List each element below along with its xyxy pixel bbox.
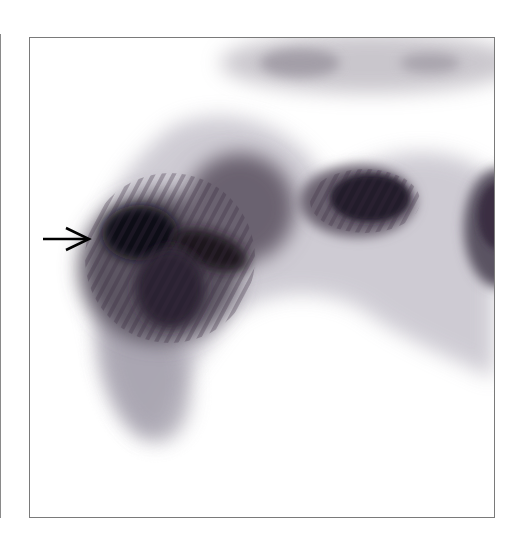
left-edge-line <box>0 34 1 518</box>
scan-frame <box>29 37 495 518</box>
arrow-right-icon <box>42 226 92 252</box>
scan-image <box>30 38 494 517</box>
